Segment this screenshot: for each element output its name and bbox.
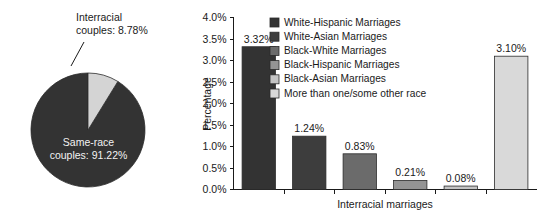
y-tick-label: 3.0% — [203, 54, 227, 66]
bar-chart-svg: Percentage 0.0%0.5%1.0%1.5%2.0%2.5%3.0%3… — [196, 0, 558, 221]
legend-swatch-4[interactable] — [270, 61, 279, 70]
bar-value-label-6: 3.10% — [496, 42, 526, 54]
pie-label-same-race-line1: Same-race — [22, 136, 155, 149]
y-tick-label: 4.0% — [203, 11, 227, 23]
bar-chart-panel: Percentage 0.0%0.5%1.0%1.5%2.0%2.5%3.0%3… — [196, 0, 558, 221]
y-tick-label: 2.0% — [203, 97, 227, 109]
y-tick-label: 1.0% — [203, 140, 227, 152]
legend-label-6: More than one/some other race — [284, 88, 426, 99]
bar-value-label-4: 0.21% — [395, 166, 425, 178]
legend-swatch-3[interactable] — [270, 46, 279, 55]
y-tick-label: 2.5% — [203, 76, 227, 88]
pie-label-interracial: Interracial couples: 8.78% — [76, 11, 148, 36]
legend-label-1: White-Hispanic Marriages — [284, 17, 401, 28]
bar-6[interactable] — [495, 56, 528, 189]
y-tick-label: 0.0% — [203, 183, 227, 195]
legend-label-5: Black-Asian Marriages — [284, 73, 386, 84]
x-axis-title: Interracial marriages — [337, 198, 433, 210]
y-tick-label: 3.5% — [203, 33, 227, 45]
chart-legend: White-Hispanic MarriagesWhite-Asian Marr… — [270, 17, 426, 99]
y-tick-label: 0.5% — [203, 162, 227, 174]
y-tick-label: 1.5% — [203, 119, 227, 131]
legend-swatch-5[interactable] — [270, 75, 279, 84]
bar-5[interactable] — [444, 186, 477, 189]
x-axis-ticks — [284, 190, 486, 194]
bar-value-label-1: 3.32% — [244, 33, 274, 45]
bar-value-label-3: 0.83% — [345, 140, 375, 152]
pie-chart-panel: Interracial couples: 8.78% Same-race cou… — [0, 0, 196, 221]
pie-label-same-race: Same-race couples: 91.22% — [22, 136, 155, 161]
pie-label-same-race-line2: couples: 91.22% — [22, 149, 155, 162]
y-axis-ticks: 0.0%0.5%1.0%1.5%2.0%2.5%3.0%3.5%4.0% — [203, 11, 234, 195]
bar-value-label-2: 1.24% — [294, 122, 324, 134]
pie-leader-line — [71, 42, 84, 66]
figure-root: Interracial couples: 8.78% Same-race cou… — [0, 0, 558, 221]
bar-value-label-5: 0.08% — [446, 172, 476, 184]
legend-swatch-2[interactable] — [270, 32, 279, 41]
bar-4[interactable] — [394, 180, 427, 189]
legend-swatch-1[interactable] — [270, 18, 279, 27]
legend-label-4: Black-Hispanic Marriages — [284, 59, 400, 70]
bar-2[interactable] — [293, 136, 326, 189]
bar-3[interactable] — [343, 154, 376, 190]
pie-label-interracial-line1: Interracial — [76, 11, 148, 24]
legend-label-3: Black-White Marriages — [284, 45, 386, 56]
axis-frame — [234, 18, 537, 190]
pie-label-interracial-line2: couples: 8.78% — [76, 24, 148, 37]
legend-swatch-6[interactable] — [270, 89, 279, 98]
legend-label-2: White-Asian Marriages — [284, 31, 387, 42]
